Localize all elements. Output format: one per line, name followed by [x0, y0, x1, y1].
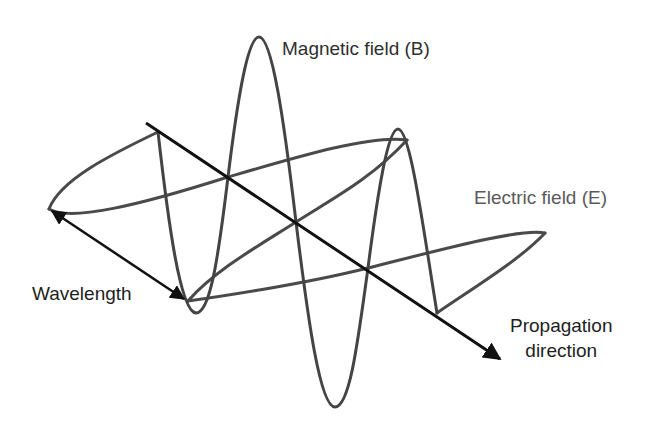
- propagation-label-line2: direction: [510, 338, 612, 363]
- propagation-label-line1: Propagation: [510, 313, 612, 338]
- propagation-axis-arrow: [146, 123, 500, 359]
- electric-field-label: Electric field (E): [474, 187, 607, 209]
- magnetic-field-wave: [158, 37, 437, 407]
- propagation-direction-label: Propagation direction: [510, 313, 612, 363]
- em-wave-diagram: [0, 0, 666, 432]
- wavelength-label: Wavelength: [32, 283, 132, 305]
- magnetic-field-label: Magnetic field (B): [282, 38, 430, 60]
